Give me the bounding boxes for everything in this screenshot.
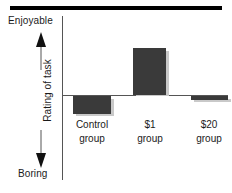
category-label-line1: $20: [172, 118, 232, 132]
category-label-line2: group: [172, 132, 232, 146]
bar-control-group: [73, 96, 111, 114]
festinger-cognitive-dissonance-bar-chart: Enjoyable Boring Rating of task Control …: [0, 0, 232, 193]
top-rule-divider: [10, 6, 222, 10]
bar-twenty-dollar-group: [191, 96, 228, 100]
y-axis-spine: [62, 16, 63, 180]
axis-top-label-enjoyable: Enjoyable: [8, 15, 53, 26]
axis-bottom-label-boring: Boring: [18, 168, 48, 179]
category-label-twenty-dollar-group: $20 group: [172, 118, 232, 146]
arrow-down-icon: [36, 153, 46, 168]
bar-one-dollar-group: [133, 48, 166, 95]
y-axis-title: Rating of task: [42, 36, 53, 146]
